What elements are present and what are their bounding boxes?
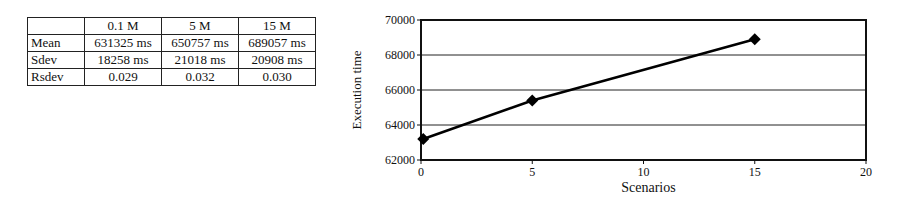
x-tick-label: 10: [638, 165, 650, 179]
y-tick-label: 62000: [385, 153, 415, 167]
diamond-marker: [526, 95, 538, 107]
y-tick-label: 68000: [385, 48, 415, 62]
row-label: Sdev: [28, 52, 85, 69]
header-cell-empty: [28, 18, 85, 35]
cell: 689057 ms: [239, 35, 316, 52]
execution-time-chart: 620006400066000680007000005101520Scenari…: [340, 0, 901, 210]
header-cell-15M: 15 M: [239, 18, 316, 35]
cell: 0.029: [85, 69, 162, 86]
table-row-sdev: Sdev 18258 ms 21018 ms 20908 ms: [28, 52, 316, 69]
x-tick-label: 5: [529, 165, 535, 179]
table-row-rsdev: Rsdev 0.029 0.032 0.030: [28, 69, 316, 86]
row-label: Rsdev: [28, 69, 85, 86]
cell: 650757 ms: [162, 35, 239, 52]
x-axis-label: Scenarios: [621, 180, 675, 195]
series-line: [423, 39, 755, 139]
statistics-table: 0.1 M 5 M 15 M Mean 631325 ms 650757 ms …: [27, 17, 316, 86]
cell: 0.030: [239, 69, 316, 86]
cell: 20908 ms: [239, 52, 316, 69]
x-tick-label: 15: [749, 165, 761, 179]
row-label: Mean: [28, 35, 85, 52]
cell: 18258 ms: [85, 52, 162, 69]
x-tick-label: 0: [418, 165, 424, 179]
diamond-marker: [417, 133, 429, 145]
cell: 21018 ms: [162, 52, 239, 69]
chart-canvas: 620006400066000680007000005101520Scenari…: [340, 0, 901, 210]
header-cell-5M: 5 M: [162, 18, 239, 35]
x-tick-label: 20: [860, 165, 872, 179]
y-axis-label: Execution time: [349, 50, 364, 129]
y-tick-label: 70000: [385, 13, 415, 27]
cell: 0.032: [162, 69, 239, 86]
cell: 631325 ms: [85, 35, 162, 52]
table-row-mean: Mean 631325 ms 650757 ms 689057 ms: [28, 35, 316, 52]
diamond-marker: [749, 33, 761, 45]
table-header-row: 0.1 M 5 M 15 M: [28, 18, 316, 35]
y-tick-label: 64000: [385, 118, 415, 132]
y-tick-label: 66000: [385, 83, 415, 97]
header-cell-0.1M: 0.1 M: [85, 18, 162, 35]
